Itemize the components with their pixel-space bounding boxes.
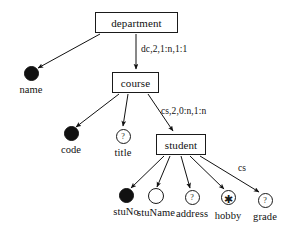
edge-student-hobby xyxy=(190,156,224,189)
attribute-label-grade: grade xyxy=(265,211,307,222)
attribute-node-grade[interactable]: ? xyxy=(258,193,273,208)
attribute-node-title[interactable]: ? xyxy=(116,129,131,144)
edge-label-dept-course-label: dc,2,1:n,1:1 xyxy=(141,44,187,54)
attribute-label-title: title xyxy=(123,147,307,158)
attribute-glyph-title: ? xyxy=(121,133,125,141)
schema-diagram-canvas: departmentcoursestudent namecode?titlest… xyxy=(0,0,307,233)
attribute-node-stuNo[interactable] xyxy=(119,188,134,203)
attribute-node-name[interactable] xyxy=(24,66,39,81)
attribute-glyph-grade: ? xyxy=(263,197,267,205)
attribute-glyph-hobby: ✱ xyxy=(224,193,233,204)
entity-label-department: department xyxy=(111,17,161,29)
entity-box-department[interactable]: department xyxy=(95,12,178,33)
attribute-node-address[interactable]: ? xyxy=(185,190,200,205)
edge-label-student-grade-label: cs xyxy=(238,163,246,173)
edge-label-course-student-label: cs,2,0:n,1:n xyxy=(161,106,206,116)
attribute-node-code[interactable] xyxy=(64,126,79,141)
attribute-label-name: name xyxy=(31,84,307,95)
edge-student-address xyxy=(181,156,190,188)
edge-course-code xyxy=(76,94,119,127)
edge-department-name xyxy=(38,34,100,68)
attribute-glyph-address: ? xyxy=(190,194,194,202)
attribute-node-stuName[interactable] xyxy=(148,188,164,204)
attribute-node-hobby[interactable]: ✱ xyxy=(221,190,236,205)
edge-course-title xyxy=(123,94,128,126)
